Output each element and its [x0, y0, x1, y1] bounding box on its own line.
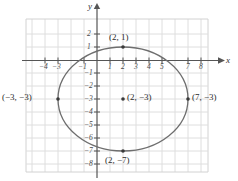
- y-tick-label--8: −8: [84, 160, 93, 168]
- ellipse-graph-figure: x y −4 −3 −1 1 2 3 4 5 7 8 2 1 −1 −2 −3 …: [0, 0, 238, 181]
- y-tick-label--4: −4: [84, 108, 93, 116]
- point-label-left-vertex: (−3, −3): [2, 93, 32, 102]
- y-tick-label-1: 1: [87, 43, 91, 51]
- y-tick-label--5: −5: [84, 121, 93, 129]
- x-tick-label-7: 7: [186, 63, 190, 71]
- y-tick-label--3: −3: [84, 95, 93, 103]
- point-label-right-vertex: (7, −3): [192, 93, 217, 102]
- y-tick-label-2: 2: [87, 30, 91, 38]
- x-tick-label--4: −4: [39, 63, 48, 71]
- y-tick-label--7: −7: [84, 147, 93, 155]
- point-label-top-vertex: (2, 1): [109, 33, 129, 42]
- x-tick-label-8: 8: [199, 63, 203, 71]
- y-tick-label--6: −6: [84, 134, 93, 142]
- point-bottom-vertex: [121, 149, 125, 153]
- x-tick-label-5: 5: [160, 63, 164, 71]
- y-tick-label--1: −1: [84, 69, 93, 77]
- point-top-vertex: [121, 45, 125, 49]
- y-axis-arrow: [94, 3, 100, 9]
- x-tick-label-3: 3: [134, 63, 138, 71]
- point-label-center: (2, −3): [127, 93, 152, 102]
- point-label-bottom-vertex: (2, −7): [105, 156, 130, 165]
- x-tick-label-4: 4: [147, 63, 151, 71]
- x-axis-label: x: [226, 56, 230, 65]
- x-axis-arrow: [218, 57, 225, 63]
- x-tick-label-1: 1: [108, 63, 112, 71]
- point-center: [121, 97, 125, 101]
- x-tick-label--3: −3: [52, 63, 61, 71]
- point-right-vertex: [186, 97, 190, 101]
- y-tick-label--2: −2: [84, 82, 93, 90]
- y-axis-label: y: [88, 2, 92, 11]
- x-tick-label-2: 2: [121, 63, 125, 71]
- point-left-vertex: [56, 97, 60, 101]
- coordinate-plane: [0, 0, 238, 181]
